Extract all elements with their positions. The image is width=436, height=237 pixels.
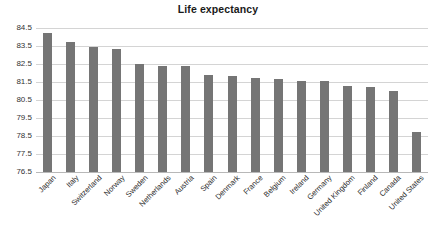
bar bbox=[412, 132, 421, 172]
bar bbox=[366, 87, 375, 172]
y-axis-tick-label: 79.5 bbox=[16, 114, 32, 122]
bar bbox=[89, 47, 98, 172]
y-axis-tick-label: 83.5 bbox=[16, 42, 32, 50]
bars-group bbox=[36, 28, 428, 172]
y-axis-tick-label: 77.5 bbox=[16, 150, 32, 158]
bar bbox=[297, 81, 306, 172]
bar bbox=[135, 64, 144, 172]
bar bbox=[274, 79, 283, 172]
bar bbox=[389, 91, 398, 172]
life-expectancy-bar-chart: Life expectancy 76.577.578.579.580.581.5… bbox=[0, 0, 436, 237]
bar bbox=[228, 76, 237, 172]
bar bbox=[204, 75, 213, 172]
bar bbox=[43, 33, 52, 172]
y-axis-tick-label: 76.5 bbox=[16, 168, 32, 176]
y-axis-tick-label: 82.5 bbox=[16, 60, 32, 68]
bar bbox=[343, 86, 352, 172]
bar bbox=[320, 81, 329, 172]
gridline bbox=[36, 172, 428, 173]
y-axis-tick-label: 84.5 bbox=[16, 24, 32, 32]
bar bbox=[112, 49, 121, 172]
chart-title: Life expectancy bbox=[0, 3, 436, 15]
y-axis-tick-label: 80.5 bbox=[16, 96, 32, 104]
bar bbox=[158, 66, 167, 172]
x-axis-tick-labels: JapanItalySwitzerlandNorwaySwedenNetherl… bbox=[36, 174, 428, 236]
bar bbox=[251, 78, 260, 173]
y-axis-tick-label: 78.5 bbox=[16, 132, 32, 140]
plot-area: 76.577.578.579.580.581.582.583.584.5 bbox=[36, 28, 428, 172]
bar bbox=[181, 66, 190, 172]
y-axis-tick-label: 81.5 bbox=[16, 78, 32, 86]
bar bbox=[66, 42, 75, 172]
